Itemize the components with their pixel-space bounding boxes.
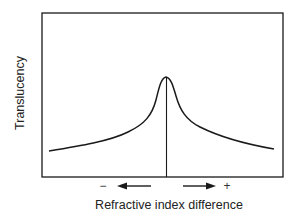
y-axis-label: Translucency	[13, 56, 27, 130]
chart-canvas	[0, 0, 299, 221]
right-arrow-icon	[183, 183, 216, 190]
minus-sign: −	[99, 179, 106, 193]
left-arrow-icon	[117, 183, 151, 190]
plus-sign: +	[223, 179, 230, 193]
translucency-curve	[49, 77, 274, 151]
plot-frame	[42, 13, 283, 177]
x-axis-label: Refractive index difference	[95, 198, 243, 212]
